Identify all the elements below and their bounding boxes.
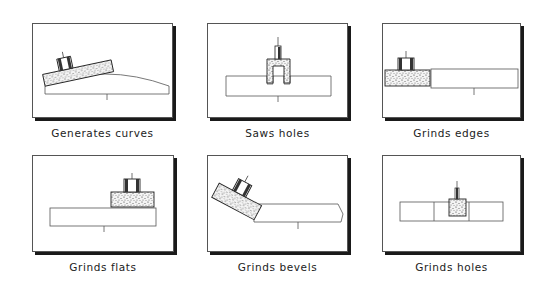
- caption-grinds-holes: Grinds holes: [382, 261, 521, 273]
- grinds-holes-drawing: [383, 156, 522, 253]
- caption-grinds-edges: Grinds edges: [382, 127, 521, 139]
- grinds-bevels-drawing: [208, 156, 349, 253]
- panel-grinds-bevels: [207, 155, 348, 252]
- caption-generates-curves: Generates curves: [32, 127, 173, 139]
- grinding-wheel-icon: [111, 173, 154, 207]
- grinds-edges-drawing: [383, 24, 522, 119]
- panel-saws-holes: [207, 23, 348, 118]
- caption-saws-holes: Saws holes: [207, 127, 348, 139]
- saws-holes-drawing: [208, 24, 349, 119]
- grinds-flats-drawing: [33, 156, 175, 253]
- panel-grinds-holes: [382, 155, 521, 252]
- generates-curves-drawing: [33, 24, 174, 119]
- caption-grinds-flats: Grinds flats: [32, 261, 174, 273]
- caption-grinds-bevels: Grinds bevels: [207, 261, 348, 273]
- panel-generates-curves: [32, 23, 173, 118]
- panel-grinds-edges: [382, 23, 521, 118]
- grinding-wheel-icon: [385, 51, 430, 86]
- panel-grinds-flats: [32, 155, 174, 252]
- internal-grinder-icon: [449, 181, 466, 216]
